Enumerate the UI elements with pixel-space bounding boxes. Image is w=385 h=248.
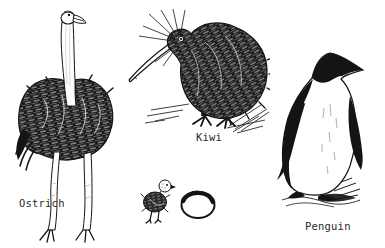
ostrich-head	[61, 11, 86, 24]
kiwi-label: Kiwi	[196, 131, 222, 143]
ostrich-label: Ostrich	[19, 197, 65, 209]
penguin-label: Penguin	[305, 220, 351, 232]
chick-and-egg-illustration	[136, 175, 222, 225]
ostrich-feet	[40, 230, 94, 242]
chick-illustration	[141, 180, 176, 223]
chick-eye	[166, 184, 168, 186]
chick-body	[144, 192, 167, 212]
ostrich-eye	[68, 14, 70, 16]
penguin-illustration	[272, 48, 367, 218]
chick-legs	[146, 211, 161, 223]
kiwi-illustration	[125, 8, 270, 134]
egg-illustration	[182, 192, 215, 218]
chick-beak	[171, 185, 176, 189]
flightless-birds-figure: Ostrich	[0, 0, 385, 248]
chick-head	[159, 180, 171, 192]
ostrich-beak	[73, 15, 86, 23]
kiwi-eye	[180, 38, 182, 40]
